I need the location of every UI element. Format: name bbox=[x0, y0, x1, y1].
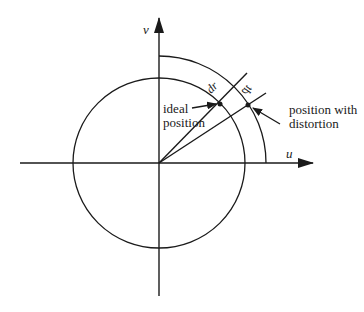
u-axis-label: u bbox=[286, 146, 293, 161]
distortion-label-line2: distortion bbox=[289, 116, 339, 131]
dr-label: dr bbox=[203, 78, 221, 96]
diagram-canvas: v u dr dt ideal position position with d… bbox=[0, 0, 364, 312]
distortion-diagram: v u dr dt ideal position position with d… bbox=[0, 0, 364, 312]
distorted-point bbox=[246, 103, 251, 108]
v-axis-label: v bbox=[143, 22, 149, 37]
ideal-label-line1: ideal bbox=[163, 101, 189, 116]
ideal-label-line2: position bbox=[163, 115, 205, 130]
distortion-label-line1: position with bbox=[289, 102, 358, 117]
ideal-point bbox=[218, 102, 223, 107]
dt-label: dt bbox=[239, 82, 256, 99]
